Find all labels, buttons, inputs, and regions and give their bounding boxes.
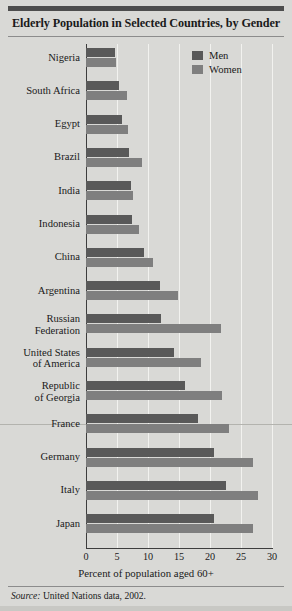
bar-women[interactable] xyxy=(86,324,221,333)
bar-women[interactable] xyxy=(86,158,142,167)
x-axis-label: Percent of population aged 60+ xyxy=(0,567,292,579)
legend-item-women[interactable]: Women xyxy=(192,64,242,75)
category-label: Egypt xyxy=(0,118,80,130)
category-label: Italy xyxy=(0,484,80,496)
chart-legend: Men Women xyxy=(192,50,242,78)
x-tick-15: 15 xyxy=(164,551,194,562)
category-label-line: Russian xyxy=(0,313,80,325)
bar-women[interactable] xyxy=(86,424,229,433)
bar-men[interactable] xyxy=(86,514,214,523)
bar-men[interactable] xyxy=(86,148,129,157)
bar-women[interactable] xyxy=(86,125,128,134)
legend-item-men[interactable]: Men xyxy=(192,50,242,61)
category-label: Germany xyxy=(0,451,80,463)
x-tick-0: 0 xyxy=(71,551,101,562)
gridline-20 xyxy=(210,44,211,548)
bar-women[interactable] xyxy=(86,291,178,300)
gridline-30 xyxy=(272,44,273,548)
chart-title: Elderly Population in Selected Countries… xyxy=(0,16,292,31)
x-tick-10: 10 xyxy=(133,551,163,562)
bottom-edge xyxy=(0,606,292,611)
bar-men[interactable] xyxy=(86,248,144,257)
bar-women[interactable] xyxy=(86,91,127,100)
bar-men[interactable] xyxy=(86,48,115,57)
bar-men[interactable] xyxy=(86,448,214,457)
x-axis-line xyxy=(86,548,273,549)
bar-men[interactable] xyxy=(86,215,132,224)
category-label: RussianFederation xyxy=(0,313,80,336)
source-divider xyxy=(8,586,284,587)
category-label-line: Federation xyxy=(0,325,80,337)
legend-swatch-men xyxy=(192,51,203,60)
category-label-line: of America xyxy=(0,358,80,370)
legend-swatch-women xyxy=(192,65,203,74)
bar-men[interactable] xyxy=(86,348,174,357)
category-label: Japan xyxy=(0,518,80,530)
category-label: Republicof Georgia xyxy=(0,380,80,403)
category-label: India xyxy=(0,185,80,197)
x-tick-25: 25 xyxy=(226,551,256,562)
category-label: Brazil xyxy=(0,151,80,163)
x-tick-30: 30 xyxy=(257,551,287,562)
category-label-line: United States xyxy=(0,347,80,359)
category-label-line: Republic xyxy=(0,380,80,392)
bar-men[interactable] xyxy=(86,481,226,490)
legend-label-women: Women xyxy=(209,64,242,75)
source-note: Source: United Nations data, 2002. xyxy=(11,590,146,601)
category-label: South Africa xyxy=(0,85,80,97)
top-rule-divider xyxy=(8,6,284,11)
bar-women[interactable] xyxy=(86,391,222,400)
category-label: China xyxy=(0,251,80,263)
chart-figure: Elderly Population in Selected Countries… xyxy=(0,0,292,611)
title-divider xyxy=(8,36,284,37)
x-tick-5: 5 xyxy=(102,551,132,562)
bar-women[interactable] xyxy=(86,225,139,234)
x-tick-20: 20 xyxy=(195,551,225,562)
bar-men[interactable] xyxy=(86,414,198,423)
category-label-line: of Georgia xyxy=(0,392,80,404)
bar-men[interactable] xyxy=(86,381,185,390)
category-label: Argentina xyxy=(0,285,80,297)
bar-men[interactable] xyxy=(86,181,131,190)
category-label: United Statesof America xyxy=(0,347,80,370)
bar-men[interactable] xyxy=(86,281,160,290)
category-label: France xyxy=(0,418,80,430)
bar-women[interactable] xyxy=(86,58,116,67)
bar-women[interactable] xyxy=(86,358,201,367)
gridline-25 xyxy=(241,44,242,548)
bar-men[interactable] xyxy=(86,115,122,124)
bar-women[interactable] xyxy=(86,491,258,500)
source-prefix: Source: xyxy=(11,590,40,601)
bar-men[interactable] xyxy=(86,314,161,323)
legend-label-men: Men xyxy=(209,50,228,61)
category-label: Nigeria xyxy=(0,52,80,64)
bar-women[interactable] xyxy=(86,258,153,267)
source-text: United Nations data, 2002. xyxy=(43,590,146,601)
bar-women[interactable] xyxy=(86,191,133,200)
category-label: Indonesia xyxy=(0,218,80,230)
bar-women[interactable] xyxy=(86,458,253,467)
bar-women[interactable] xyxy=(86,524,253,533)
gridline-15 xyxy=(179,44,180,548)
bar-men[interactable] xyxy=(86,81,119,90)
